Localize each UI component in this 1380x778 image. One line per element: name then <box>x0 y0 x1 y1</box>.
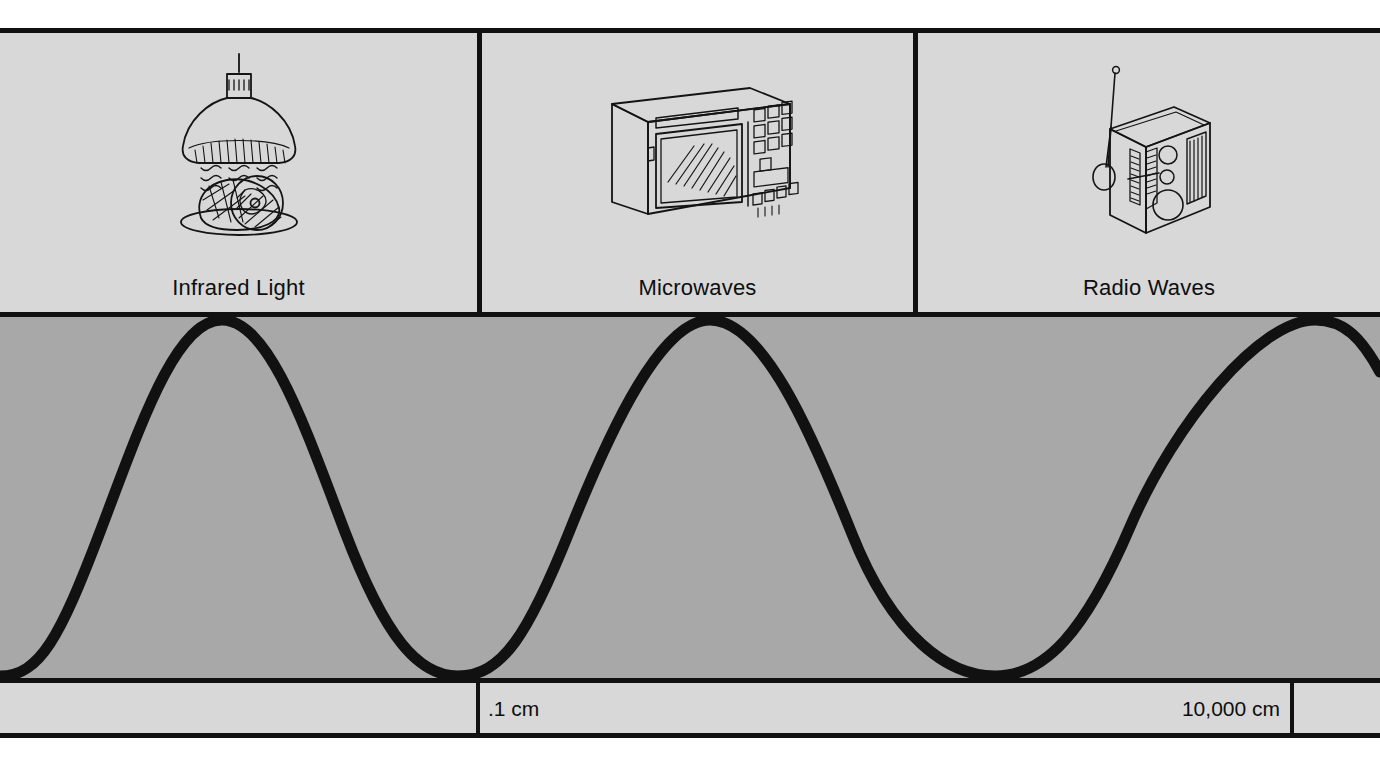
scale-label-min-wavelength: .1 cm <box>488 697 539 721</box>
portable-radio-icon <box>918 47 1380 252</box>
panel-microwaves[interactable]: Microwaves <box>482 33 913 312</box>
scale-label-max-wavelength: 10,000 cm <box>1080 697 1280 721</box>
scale-divider-left <box>476 683 480 733</box>
heat-lamp-over-ham-icon <box>0 47 477 252</box>
panel-label-infrared-light: Infrared Light <box>0 275 477 301</box>
wavelength-curve <box>0 317 1380 678</box>
panel-infrared-light[interactable]: Infrared Light <box>0 33 477 312</box>
panel-label-radio-waves: Radio Waves <box>918 275 1380 301</box>
panel-radio-waves[interactable]: Radio Waves <box>918 33 1380 312</box>
microwave-oven-icon <box>482 47 913 252</box>
spectrum-figure: Infrared Light <box>0 0 1380 778</box>
scale-divider-right <box>1290 683 1294 733</box>
panel-label-microwaves: Microwaves <box>482 275 913 301</box>
bottom-rule <box>0 733 1380 738</box>
